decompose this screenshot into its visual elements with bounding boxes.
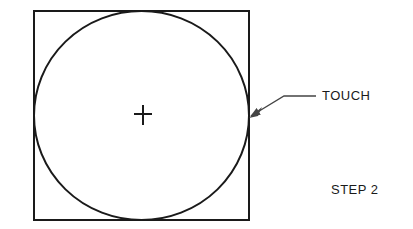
touch-callout-label: TOUCH	[322, 88, 370, 103]
arrow-pointer-icon	[249, 107, 262, 118]
step-label: STEP 2	[331, 182, 379, 197]
touch-leader-line	[251, 96, 316, 116]
crosshair-icon	[134, 105, 152, 125]
inscribed-circle	[34, 11, 249, 220]
outer-square	[34, 11, 249, 220]
